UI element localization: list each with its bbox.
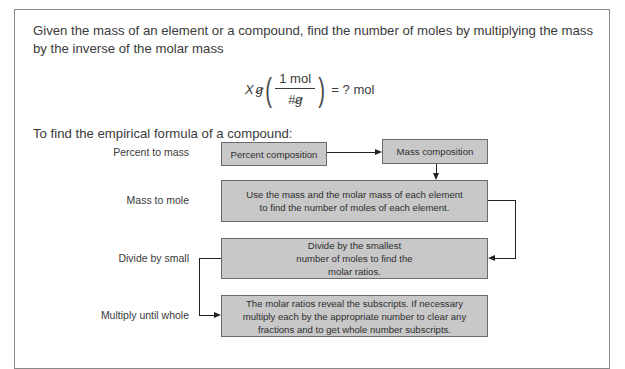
denominator-variable: # bbox=[288, 92, 295, 107]
arrow-right-icon bbox=[375, 149, 382, 155]
box-percent-composition: Percent composition bbox=[221, 142, 327, 166]
box-mass-composition-text: Mass composition bbox=[397, 145, 474, 158]
box-mass-composition: Mass composition bbox=[382, 139, 488, 164]
box-divide-by-smallest-text: Divide by the smallest number of moles t… bbox=[292, 239, 417, 278]
step-label-percent-to-mass: Percent to mass bbox=[113, 146, 189, 158]
equation-result: = ? mol bbox=[331, 82, 374, 97]
flowchart-title: To find the empirical formula of a compo… bbox=[33, 126, 293, 141]
step-label-mass-to-mole: Mass to mole bbox=[127, 194, 189, 206]
step-label-multiply-until-whole: Multiply until whole bbox=[101, 309, 189, 321]
connector-right-loop-bottom bbox=[495, 258, 516, 259]
box-percent-composition-text: Percent composition bbox=[231, 148, 318, 161]
connector-left-loop-vertical bbox=[199, 258, 200, 316]
arrow-left-icon bbox=[488, 255, 495, 261]
box-multiply-whole-text: The molar ratios reveal the subscripts. … bbox=[230, 297, 479, 336]
box-mass-to-mole: Use the mass and the molar mass of each … bbox=[221, 180, 488, 222]
box-multiply-whole: The molar ratios reveal the subscripts. … bbox=[221, 295, 488, 337]
box-divide-by-smallest: Divide by the smallest number of moles t… bbox=[221, 238, 488, 279]
left-parenthesis: ( bbox=[265, 72, 272, 106]
connector-mass-to-mole bbox=[436, 164, 437, 173]
arrow-down-icon bbox=[433, 173, 439, 180]
box-mass-to-mole-text: Use the mass and the molar mass of each … bbox=[244, 188, 465, 214]
arrow-right-icon bbox=[214, 312, 221, 318]
fraction-denominator: #g bbox=[288, 89, 302, 107]
right-parenthesis: ) bbox=[318, 72, 325, 106]
equation-cancelled-gram-unit: g bbox=[256, 82, 263, 97]
mole-conversion-equation: X g ( 1 mol #g ) = ? mol bbox=[245, 67, 374, 111]
step-label-divide-by-small: Divide by small bbox=[118, 252, 189, 264]
connector-right-loop-vertical bbox=[515, 200, 516, 259]
intro-paragraph: Given the mass of an element or a compou… bbox=[33, 22, 603, 58]
denominator-cancelled-gram-unit: g bbox=[295, 92, 302, 107]
connector-percent-to-mass bbox=[327, 152, 375, 153]
connector-left-loop-bottom bbox=[199, 315, 214, 316]
equation-mass-variable: X bbox=[245, 82, 254, 97]
connector-left-loop-top bbox=[199, 258, 221, 259]
fraction-numerator: 1 mol bbox=[275, 71, 315, 89]
inverse-molar-mass-fraction: 1 mol #g bbox=[275, 71, 315, 107]
connector-right-loop-top bbox=[488, 200, 516, 201]
